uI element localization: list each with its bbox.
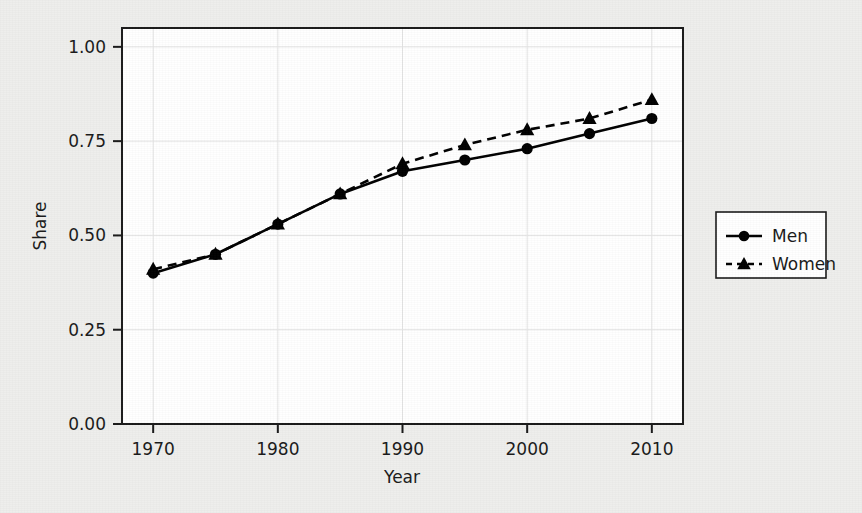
y-axis-title: Share bbox=[30, 201, 50, 250]
x-tick-label: 1990 bbox=[381, 439, 424, 459]
x-tick-label: 1980 bbox=[256, 439, 299, 459]
x-axis-title: Year bbox=[383, 467, 420, 487]
data-point-marker-circle bbox=[459, 154, 470, 165]
legend-label: Women bbox=[772, 254, 836, 274]
y-tick-label: 1.00 bbox=[68, 37, 106, 57]
x-tick-label: 2010 bbox=[630, 439, 673, 459]
chart-figure: 0.000.250.500.751.00 1970198019902000201… bbox=[0, 0, 862, 513]
data-point-marker-circle bbox=[522, 143, 533, 154]
y-tick-label: 0.25 bbox=[68, 320, 106, 340]
y-tick-label: 0.50 bbox=[68, 225, 106, 245]
share-by-gender-line-chart: 0.000.250.500.751.00 1970198019902000201… bbox=[0, 0, 862, 513]
y-tick-label: 0.00 bbox=[68, 414, 106, 434]
data-point-marker-circle bbox=[584, 128, 595, 139]
x-tick-label: 2000 bbox=[506, 439, 549, 459]
y-tick-label: 0.75 bbox=[68, 131, 106, 151]
legend-label: Men bbox=[772, 226, 808, 246]
chart-legend: MenWomen bbox=[716, 212, 836, 278]
x-tick-label: 1970 bbox=[132, 439, 175, 459]
data-point-marker-circle bbox=[646, 113, 657, 124]
data-point-marker-circle bbox=[739, 231, 750, 242]
